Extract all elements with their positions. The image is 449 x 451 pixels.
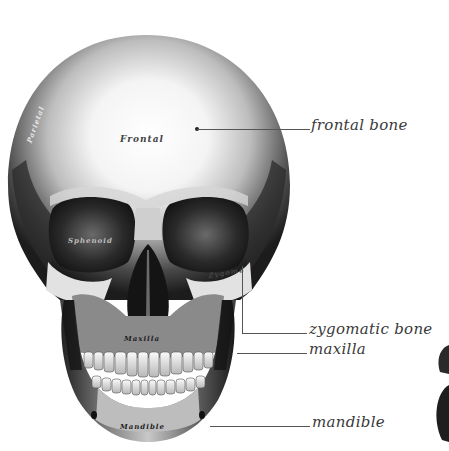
zygomatic-leader-line bbox=[242, 333, 307, 334]
inner-label-mandible: Mandible bbox=[120, 422, 165, 431]
label-frontal-bone: frontal bone bbox=[311, 118, 408, 133]
left-orbit bbox=[49, 197, 136, 273]
mental-foramen-right bbox=[199, 411, 205, 419]
right-orbit bbox=[163, 197, 249, 273]
maxilla-leader-line bbox=[237, 353, 307, 354]
nasal-bridge bbox=[134, 208, 162, 240]
frontal-leader-line bbox=[197, 129, 310, 130]
mandible-leader-line bbox=[210, 426, 310, 427]
adjacent-figure-bottom bbox=[436, 385, 449, 442]
label-zygomatic-bone: zygomatic bone bbox=[309, 322, 433, 337]
adjacent-figure-top bbox=[438, 345, 449, 374]
inner-label-maxilla: Maxilla bbox=[124, 334, 160, 343]
label-mandible: mandible bbox=[312, 415, 385, 430]
zygomatic-leader-vertical bbox=[242, 266, 243, 333]
inner-label-sphenoid: Sphenoid bbox=[68, 236, 113, 245]
lower-teeth bbox=[92, 376, 205, 395]
label-maxilla: maxilla bbox=[309, 342, 366, 357]
inner-label-frontal: Frontal bbox=[120, 134, 164, 144]
mental-foramen-left bbox=[91, 411, 97, 419]
skull-illustration bbox=[0, 0, 449, 451]
